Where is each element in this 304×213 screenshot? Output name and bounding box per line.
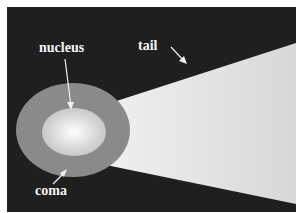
coma-label: coma <box>35 183 67 199</box>
tail-label: tail <box>138 38 157 54</box>
nucleus-shape <box>42 108 106 156</box>
comet-diagram: nucleus tail coma <box>7 7 296 212</box>
nucleus-label: nucleus <box>39 40 84 56</box>
